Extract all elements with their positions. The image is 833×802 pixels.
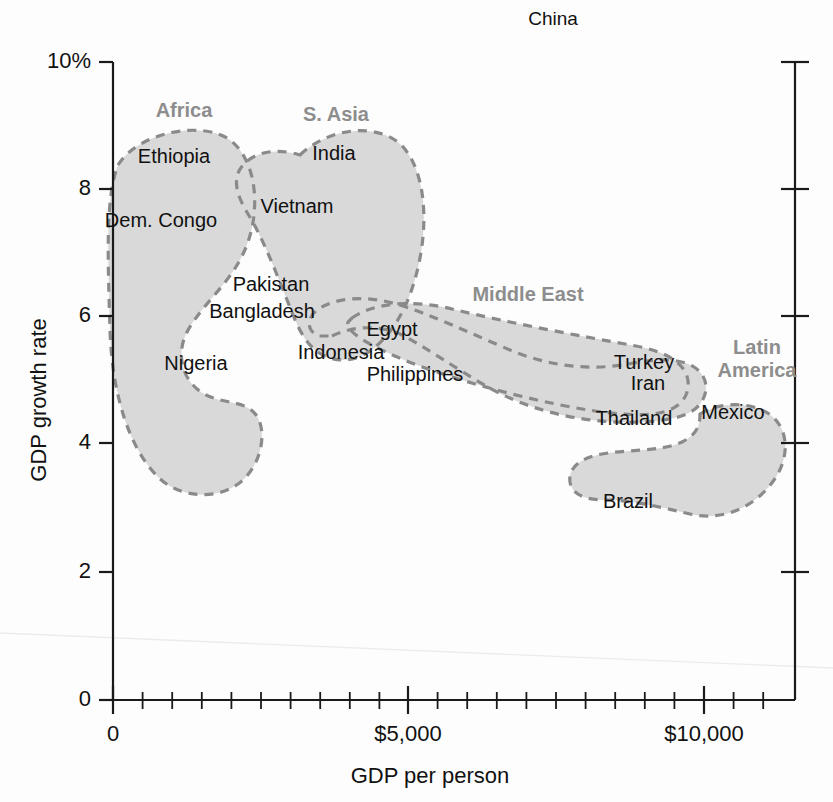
x-tick-label-5000: $5,000	[374, 721, 441, 746]
country-label-india: India	[312, 142, 356, 164]
y-axis-title: GDP growth rate	[26, 318, 51, 481]
group-label-latin-line2: America	[718, 359, 798, 381]
country-label-vietnam: Vietnam	[260, 195, 333, 217]
country-label-brazil: Brazil	[603, 490, 653, 512]
country-label-thailand: Thailand	[596, 407, 673, 429]
y-tick-label-2: 2	[79, 558, 91, 583]
country-label-bangladesh: Bangladesh	[209, 300, 315, 322]
country-label-egypt: Egypt	[366, 318, 418, 340]
y-tick-label-4: 4	[79, 429, 91, 454]
group-label-africa: Africa	[156, 99, 214, 121]
country-label-mexico: Mexico	[701, 401, 764, 423]
group-label-s-asia: S. Asia	[303, 103, 370, 125]
country-label-philippines: Philippines	[367, 363, 464, 385]
country-label-iran: Iran	[631, 372, 665, 394]
chart-page: 10% 8 6 4 2 0 0 $5,000 $10,000 GDP growt…	[0, 0, 833, 802]
country-label-indonesia: Indonesia	[298, 341, 386, 363]
group-label-middle-east: Middle East	[472, 283, 583, 305]
country-label-nigeria: Nigeria	[164, 352, 228, 374]
country-label-ethiopia: Ethiopia	[138, 145, 211, 167]
country-label-pakistan: Pakistan	[233, 273, 310, 295]
country-label-dem-congo: Dem. Congo	[105, 209, 217, 231]
group-label-latin-line1: Latin	[733, 336, 781, 358]
x-tick-label-10000: $10,000	[664, 721, 744, 746]
scan-artifact-line	[0, 633, 833, 668]
y-tick-label-8: 8	[79, 175, 91, 200]
x-tick-label-0: 0	[107, 721, 119, 746]
gdp-scatter-chart: 10% 8 6 4 2 0 0 $5,000 $10,000 GDP growt…	[0, 0, 833, 802]
y-tick-label-6: 6	[79, 302, 91, 327]
outlier-label-china: China	[528, 8, 578, 29]
y-tick-label-10: 10%	[47, 48, 91, 73]
x-axis-title: GDP per person	[351, 763, 510, 788]
y-tick-label-0: 0	[79, 686, 91, 711]
country-label-turkey: Turkey	[614, 351, 674, 373]
